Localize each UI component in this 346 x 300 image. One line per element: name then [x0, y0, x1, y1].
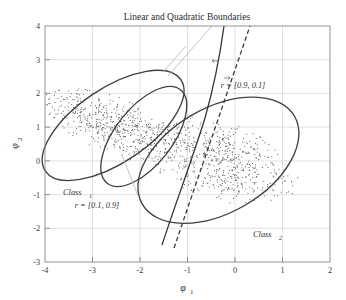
- scatter-point: [75, 112, 76, 113]
- scatter-point: [80, 101, 81, 102]
- scatter-point: [182, 139, 183, 140]
- scatter-point: [224, 159, 225, 160]
- scatter-point: [216, 158, 217, 159]
- scatter-point: [133, 141, 134, 142]
- scatter-point: [238, 178, 239, 179]
- scatter-point: [188, 145, 189, 146]
- scatter-point: [232, 154, 233, 155]
- scatter-point: [218, 170, 219, 171]
- scatter-point: [112, 122, 113, 123]
- scatter-point: [72, 135, 73, 136]
- scatter-point: [71, 93, 72, 94]
- scatter-point: [203, 156, 204, 157]
- scatter-point: [238, 193, 239, 194]
- scatter-point: [160, 172, 161, 173]
- scatter-point: [206, 143, 207, 144]
- scatter-point: [224, 150, 225, 151]
- scatter-point: [177, 129, 178, 130]
- scatter-point: [110, 121, 111, 122]
- scatter-point: [277, 195, 278, 196]
- scatter-point: [159, 156, 160, 157]
- scatter-point: [185, 134, 186, 135]
- scatter-point: [112, 129, 113, 130]
- scatter-point: [88, 127, 89, 128]
- scatter-point: [135, 124, 136, 125]
- scatter-point: [193, 147, 194, 148]
- scatter-point: [261, 190, 262, 191]
- scatter-point: [177, 147, 178, 148]
- scatter-point: [273, 176, 274, 177]
- scatter-point: [242, 164, 243, 165]
- scatter-point: [273, 165, 274, 166]
- class2-label-text: Class: [253, 230, 272, 239]
- scatter-point: [168, 157, 169, 158]
- scatter-point: [111, 117, 112, 118]
- scatter-point: [121, 142, 122, 143]
- scatter-point: [97, 126, 98, 127]
- scatter-point: [143, 130, 144, 131]
- scatter-point: [104, 125, 105, 126]
- scatter-point: [215, 176, 216, 177]
- scatter-point: [49, 103, 50, 104]
- scatter-point: [212, 160, 213, 161]
- scatter-point: [103, 124, 104, 125]
- scatter-point: [253, 182, 254, 183]
- scatter-point: [233, 198, 234, 199]
- scatter-point: [235, 158, 236, 159]
- scatter-point: [238, 126, 239, 127]
- scatter-point: [264, 142, 265, 143]
- scatter-point: [265, 156, 266, 157]
- scatter-point: [233, 148, 234, 149]
- scatter-point: [250, 179, 251, 180]
- scatter-point: [127, 149, 128, 150]
- scatter-point: [80, 120, 81, 121]
- scatter-point: [192, 125, 193, 126]
- scatter-point: [221, 185, 222, 186]
- scatter-point: [216, 141, 217, 142]
- y-tick-label: -2: [33, 224, 40, 233]
- scatter-point: [49, 114, 50, 115]
- scatter-point: [145, 120, 146, 121]
- y-tick-label: 0: [36, 157, 40, 166]
- scatter-point: [212, 176, 213, 177]
- scatter-point: [97, 123, 98, 124]
- scatter-point: [46, 105, 47, 106]
- scatter-point: [252, 177, 253, 178]
- scatter-point: [164, 170, 165, 171]
- scatter-point: [118, 117, 119, 118]
- scatter-point: [216, 173, 217, 174]
- scatter-point: [226, 159, 227, 160]
- scatter-point: [68, 106, 69, 107]
- scatter-point: [77, 90, 78, 91]
- scatter-point: [160, 169, 161, 170]
- scatter-point: [237, 186, 238, 187]
- scatter-point: [271, 200, 272, 201]
- scatter-point: [64, 128, 65, 129]
- scatter-point: [222, 181, 223, 182]
- scatter-point: [159, 124, 160, 125]
- scatter-point: [98, 110, 99, 111]
- scatter-point: [259, 137, 260, 138]
- scatter-point: [259, 155, 260, 156]
- scatter-point: [237, 165, 238, 166]
- scatter-point: [102, 135, 103, 136]
- scatter-point: [188, 127, 189, 128]
- scatter-point: [270, 162, 271, 163]
- scatter-point: [247, 163, 248, 164]
- scatter-point: [223, 172, 224, 173]
- scatter-point: [233, 134, 234, 135]
- scatter-point: [257, 152, 258, 153]
- scatter-point: [194, 163, 195, 164]
- scatter-point: [73, 112, 74, 113]
- scatter-point: [236, 175, 237, 176]
- scatter-point: [260, 156, 261, 157]
- scatter-point: [189, 146, 190, 147]
- scatter-point: [194, 161, 195, 162]
- scatter-point: [107, 132, 108, 133]
- scatter-point: [219, 145, 220, 146]
- scatter-point: [222, 160, 223, 161]
- scatter-point: [268, 157, 269, 158]
- scatter-point: [274, 184, 275, 185]
- scatter-point: [163, 122, 164, 123]
- scatter-point: [195, 177, 196, 178]
